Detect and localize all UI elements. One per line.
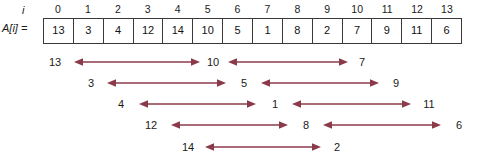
array-index-12: 12 [402, 2, 432, 17]
array-cell: 3 [74, 19, 104, 43]
array-cell: 7 [343, 19, 373, 43]
array-cell: 8 [283, 19, 313, 43]
array-cell: 9 [372, 19, 402, 43]
array-cell: 1 [253, 19, 283, 43]
array-index-0: 0 [43, 2, 73, 17]
arrow-row-value: 14 [182, 137, 194, 157]
array-cell: 5 [223, 19, 253, 43]
array-index-7: 7 [252, 2, 282, 17]
array-index-8: 8 [282, 2, 312, 17]
array-index-5: 5 [193, 2, 223, 17]
arrow-row: 142 [0, 137, 490, 157]
arrow-row-value: 8 [303, 115, 309, 135]
arrow-row-value: 9 [393, 73, 399, 93]
arrow-row-value: 3 [88, 73, 94, 93]
double-headed-arrow [107, 73, 226, 93]
double-headed-arrow [139, 94, 256, 114]
arrow-row: 359 [0, 73, 490, 93]
arrow-row-value: 4 [118, 94, 124, 114]
double-headed-arrow [205, 137, 321, 157]
arrow-row-value: 1 [272, 94, 278, 114]
array-cell: 2 [313, 19, 343, 43]
double-headed-arrow [171, 115, 288, 135]
arrow-row-value: 7 [359, 52, 365, 72]
array-index-3: 3 [133, 2, 163, 17]
double-headed-arrow [228, 52, 348, 72]
array-index-2: 2 [103, 2, 133, 17]
double-headed-arrow [261, 73, 379, 93]
array-cell: 6 [432, 19, 461, 43]
array-index-13: 13 [432, 2, 462, 17]
array-index-1: 1 [73, 2, 103, 17]
array-index-11: 11 [372, 2, 402, 17]
array-cell: 12 [134, 19, 164, 43]
arrow-row-value: 12 [145, 115, 157, 135]
arrow-row-value: 10 [207, 52, 219, 72]
arrow-row: 4111 [0, 94, 490, 114]
array-cell: 13 [44, 19, 74, 43]
array-cell: 11 [402, 19, 432, 43]
arrow-row-value: 2 [334, 137, 340, 157]
arrow-row-value: 5 [241, 73, 247, 93]
arrow-row-value: 11 [423, 94, 434, 114]
double-headed-arrow [74, 52, 200, 72]
array-axis-label: A[i] = [2, 22, 27, 34]
array-cell: 14 [163, 19, 193, 43]
array-cell: 4 [104, 19, 134, 43]
array-index-6: 6 [223, 2, 253, 17]
arrow-row-value: 6 [456, 115, 462, 135]
double-headed-arrow [323, 115, 441, 135]
array-cell: 10 [193, 19, 223, 43]
array-index-row: 012345678910111213 [43, 2, 462, 17]
array-cells: 1334121410518279116 [43, 18, 462, 44]
array-index-9: 9 [312, 2, 342, 17]
arrow-row-value: 13 [49, 52, 61, 72]
arrow-row: 13107 [0, 52, 490, 72]
index-axis-label: i [22, 4, 24, 16]
double-headed-arrow [292, 94, 411, 114]
array-diagram-figure: i A[i] = 012345678910111213 133412141051… [0, 0, 490, 164]
arrow-row: 1286 [0, 115, 490, 135]
array-index-4: 4 [163, 2, 193, 17]
array-index-10: 10 [342, 2, 372, 17]
